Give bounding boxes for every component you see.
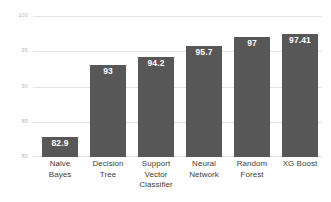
bar-column: 95.7 (186, 16, 222, 157)
bar[interactable]: 94.2 (138, 57, 174, 157)
x-axis-label-support-vector-classifier: Support Vector Classifier (130, 159, 182, 191)
y-axis-tick-label: 95 (22, 49, 28, 55)
y-axis-tick-label: 85 (22, 119, 28, 125)
x-axis-label-line: Vector (130, 170, 182, 181)
x-axis-label-line: Bayes (34, 170, 86, 181)
x-axis-label-xg-boost: XG Boost (274, 159, 326, 170)
x-axis-label-line: Naive (34, 159, 86, 170)
bar-value-label: 82.9 (42, 139, 78, 148)
y-axis-tick-label: 100 (18, 13, 28, 19)
bar[interactable]: 93 (90, 65, 126, 157)
x-axis-label-line: Decision (82, 159, 134, 170)
bar-value-label: 94.2 (138, 59, 174, 68)
bar-column: 93 (90, 16, 126, 157)
x-axis-label-line: XG Boost (274, 159, 326, 170)
bar[interactable]: 97 (234, 37, 270, 157)
x-axis-label-naive-bayes: Naive Bayes (34, 159, 86, 180)
x-axis-label-neural-network: Neural Network (178, 159, 230, 180)
bar-value-label: 97.41 (282, 36, 318, 45)
bar-series: 82.9 93 94.2 95.7 97 (33, 16, 322, 157)
x-axis-label-line: Classifier (130, 180, 182, 191)
y-axis-tick-label: 90 (22, 84, 28, 90)
y-axis-tick-label: 80 (22, 154, 28, 160)
y-axis-tick-labels: 100 95 90 85 80 (0, 16, 31, 157)
x-axis-label-line: Neural (178, 159, 230, 170)
bar-value-label: 97 (234, 39, 270, 48)
plot-area: 82.9 93 94.2 95.7 97 (33, 16, 322, 157)
x-axis-label-decision-tree: Decision Tree (82, 159, 134, 180)
bar-column: 97 (234, 16, 270, 157)
bar[interactable]: 95.7 (186, 46, 222, 157)
bar-column: 94.2 (138, 16, 174, 157)
bar-column: 82.9 (42, 16, 78, 157)
bar-value-label: 95.7 (186, 48, 222, 57)
bar[interactable]: 82.9 (42, 137, 78, 157)
x-axis-label-line: Support (130, 159, 182, 170)
bar-column: 97.41 (282, 16, 318, 157)
bar-chart: 100 95 90 85 80 82.9 93 (0, 0, 331, 202)
x-axis-label-line: Network (178, 170, 230, 181)
bar-value-label: 93 (90, 67, 126, 76)
bar[interactable]: 97.41 (282, 34, 318, 157)
x-axis-label-line: Tree (82, 170, 134, 181)
x-axis-label-random-forest: Random Forest (226, 159, 278, 180)
x-axis-label-line: Random (226, 159, 278, 170)
x-axis-label-line: Forest (226, 170, 278, 181)
x-axis-category-labels: Naive Bayes Decision Tree Support Vector… (33, 159, 322, 202)
